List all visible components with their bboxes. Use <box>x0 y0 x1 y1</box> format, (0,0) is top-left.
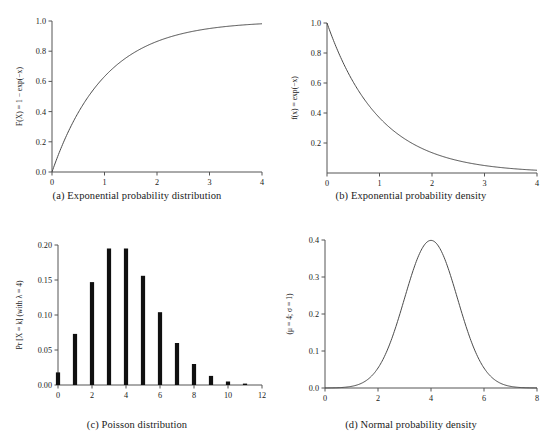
y-tick-label: 0.15 <box>38 276 52 285</box>
y-tick-label: 0.0 <box>36 168 46 177</box>
bar <box>158 312 162 385</box>
y-tick-label: 0.10 <box>38 311 52 320</box>
x-tick-label: 12 <box>258 391 266 400</box>
y-tick-label: 0.6 <box>36 77 46 86</box>
bar <box>141 276 145 385</box>
x-tick-label: 3 <box>482 179 486 188</box>
x-tick-label: 4 <box>260 178 264 187</box>
x-tick-label: 2 <box>430 179 434 188</box>
x-tick-label: 10 <box>224 391 232 400</box>
data-curve <box>325 240 537 388</box>
bar <box>226 382 230 386</box>
bar <box>243 384 247 385</box>
panel-b-caption: (b) Exponential probability density <box>274 190 548 201</box>
y-tick-label: 0.0 <box>309 384 319 393</box>
y-tick-label: 0.4 <box>311 109 321 118</box>
y-tick-label: 0.4 <box>36 108 46 117</box>
y-tick-label: 0.2 <box>309 310 319 319</box>
bar <box>107 249 111 386</box>
y-tick-label: 0.8 <box>311 49 321 58</box>
x-tick-label: 0 <box>56 391 60 400</box>
x-tick-label: 8 <box>535 394 539 403</box>
bar <box>56 372 60 385</box>
x-tick-label: 0 <box>325 179 329 188</box>
x-tick-label: 0 <box>50 178 54 187</box>
bar <box>209 376 213 385</box>
bar <box>192 364 196 385</box>
x-tick-label: 0 <box>323 394 327 403</box>
figure-container: 012340.00.20.40.60.81.0F(X) = 1 − exp(−x… <box>0 0 548 440</box>
x-tick-label: 4 <box>124 391 128 400</box>
panel-b-exponential-density: 012340.20.40.60.81.0f(x) = exp(−x) (b) E… <box>274 0 548 220</box>
y-tick-label: 0.1 <box>309 347 319 356</box>
data-curve <box>327 23 537 170</box>
data-curve <box>52 24 262 172</box>
y-axis-title: (μ = 4; σ = 1) <box>285 293 294 334</box>
y-tick-label: 1.0 <box>311 19 321 28</box>
bar <box>73 334 77 385</box>
x-tick-label: 2 <box>376 394 380 403</box>
panel-d-normal-density: 024680.00.10.20.30.4(μ = 4; σ = 1) (d) N… <box>274 220 548 440</box>
y-axis-title: f(x) = exp(−x) <box>290 76 299 120</box>
panel-a-exponential-distribution: 012340.00.20.40.60.81.0F(X) = 1 − exp(−x… <box>0 0 274 220</box>
x-tick-label: 8 <box>192 391 196 400</box>
x-tick-label: 4 <box>535 179 539 188</box>
panel-d-plot: 024680.00.10.20.30.4(μ = 4; σ = 1) <box>274 220 548 440</box>
y-tick-label: 0.8 <box>36 47 46 56</box>
panel-b-plot: 012340.20.40.60.81.0f(x) = exp(−x) <box>274 0 548 220</box>
x-tick-label: 6 <box>482 394 486 403</box>
panel-c-poisson-distribution: 0246810120.000.050.100.150.20Pr [X = k] … <box>0 220 274 440</box>
panel-a-plot: 012340.00.20.40.60.81.0F(X) = 1 − exp(−x… <box>0 0 274 220</box>
y-tick-label: 0.05 <box>38 346 52 355</box>
y-tick-label: 0.00 <box>38 381 52 390</box>
panel-a-caption: (a) Exponential probability distribution <box>0 190 274 201</box>
panel-d-caption: (d) Normal probability density <box>274 419 548 430</box>
y-axis-title: Pr [X = k] (with λ = 4) <box>15 280 24 349</box>
y-tick-label: 0.3 <box>309 273 319 282</box>
x-tick-label: 1 <box>377 179 381 188</box>
y-tick-label: 0.20 <box>38 241 52 250</box>
x-tick-label: 2 <box>155 178 159 187</box>
x-tick-label: 4 <box>429 394 433 403</box>
x-tick-label: 2 <box>90 391 94 400</box>
x-tick-label: 6 <box>158 391 162 400</box>
y-tick-label: 0.2 <box>36 138 46 147</box>
bar <box>124 249 128 386</box>
bar <box>90 282 94 385</box>
x-tick-label: 3 <box>207 178 211 187</box>
x-tick-label: 1 <box>102 178 106 187</box>
y-tick-label: 0.2 <box>311 139 321 148</box>
y-tick-label: 0.4 <box>309 236 319 245</box>
y-tick-label: 1.0 <box>36 17 46 26</box>
y-tick-label: 0.6 <box>311 79 321 88</box>
bar <box>175 343 179 385</box>
panel-c-caption: (c) Poisson distribution <box>0 419 274 430</box>
panel-c-plot: 0246810120.000.050.100.150.20Pr [X = k] … <box>0 220 274 440</box>
y-axis-title: F(X) = 1 − exp(−x) <box>15 67 24 126</box>
